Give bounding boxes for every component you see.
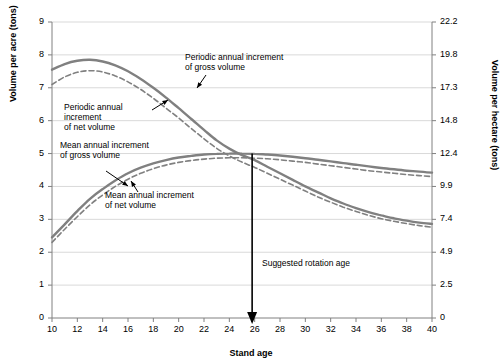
y-tick-right: 12.4 [440,148,458,158]
x-tick: 34 [346,324,366,334]
x-tick: 12 [67,324,87,334]
rotation-age-label-line: Suggested rotation age [262,258,382,268]
x-tick: 16 [118,324,138,334]
x-tick: 32 [321,324,341,334]
y-tick-right: 14.8 [440,115,458,125]
y-tick-right: 22.2 [440,16,458,26]
mai-gross-label-line: Mean annual increment [60,140,175,150]
pai-gross-label: Periodic annual incrementof gross volume [185,52,315,72]
pai-gross-label-line: of gross volume [185,62,315,72]
y-axis-right-title: Volume per hectare (tons) [490,60,500,170]
leader-pai-net-head [162,100,168,105]
y-tick-left: 9 [14,16,44,26]
y-tick-left: 2 [14,246,44,256]
x-tick: 28 [270,324,290,334]
y-tick-left: 0 [14,312,44,322]
x-tick: 30 [295,324,315,334]
leader-pai-gross-head [197,82,202,88]
x-tick: 38 [397,324,417,334]
x-tick: 20 [169,324,189,334]
x-tick: 14 [93,324,113,334]
y-tick-left: 6 [14,115,44,125]
rotation-age-label: Suggested rotation age [262,258,382,268]
x-tick: 22 [194,324,214,334]
x-tick: 10 [42,324,62,334]
y-tick-right: 19.8 [440,49,458,59]
pai-gross-label-line: Periodic annual increment [185,52,315,62]
mai-gross-label-line: of gross volume [60,150,175,160]
x-tick: 18 [143,324,163,334]
mai-net-label-line: Mean annual increment [105,190,225,200]
y-tick-left: 8 [14,49,44,59]
y-tick-right: 17.3 [440,82,458,92]
x-tick: 24 [219,324,239,334]
chart-container: Volume per acre (tons) Volume per hectar… [0,0,502,362]
y-tick-right: 0 [440,312,445,322]
x-tick: 26 [245,324,265,334]
pai-net-label-line: Periodic annual [64,102,159,112]
y-tick-left: 1 [14,279,44,289]
y-tick-left: 4 [14,180,44,190]
y-tick-left: 3 [14,213,44,223]
x-tick: 36 [371,324,391,334]
y-tick-right: 9.9 [440,180,453,190]
x-tick: 40 [422,324,442,334]
pai-net-label: Periodic annualincrementof net volume [64,102,159,132]
y-tick-right: 4.9 [440,246,453,256]
mai-gross-label: Mean annual incrementof gross volume [60,140,175,160]
pai-net-label-line: increment [64,112,159,122]
x-axis-title: Stand age [0,348,502,358]
pai-net-label-line: of net volume [64,122,159,132]
y-tick-left: 7 [14,82,44,92]
y-tick-right: 2.5 [440,279,453,289]
y-tick-right: 7.4 [440,213,453,223]
mai-net-label-line: of net volume [105,200,225,210]
y-tick-left: 5 [14,148,44,158]
mai-net-label: Mean annual incrementof net volume [105,190,225,210]
